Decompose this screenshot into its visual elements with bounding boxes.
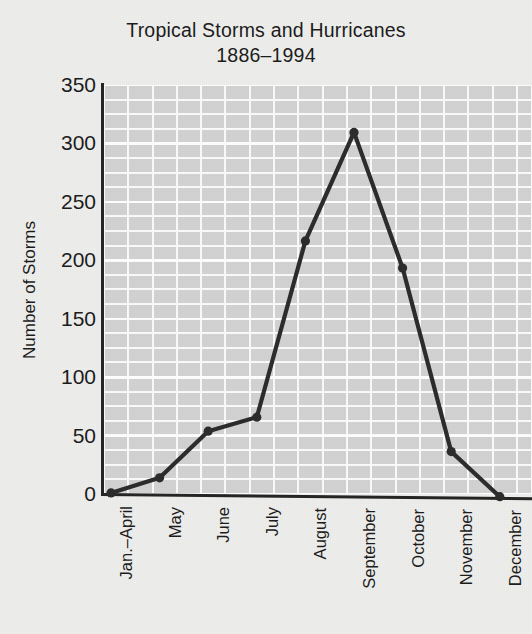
data-series-layer xyxy=(0,0,532,634)
data-point-marker xyxy=(447,447,456,456)
data-point-marker xyxy=(252,413,261,422)
chart-figure: Tropical Storms and Hurricanes 1886–1994… xyxy=(0,0,532,634)
data-point-marker xyxy=(106,488,115,497)
data-point-marker xyxy=(398,263,407,272)
data-point-marker xyxy=(495,492,504,501)
data-point-marker xyxy=(204,427,213,436)
data-point-marker xyxy=(155,473,164,482)
data-point-marker xyxy=(349,128,358,137)
series-line xyxy=(111,132,500,496)
data-point-marker xyxy=(301,236,310,245)
